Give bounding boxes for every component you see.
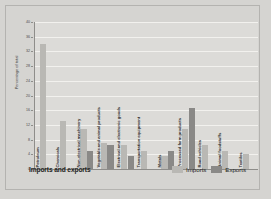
y-tick-mark: [31, 81, 33, 82]
bar-group: Chemicals: [55, 22, 75, 169]
legend-label: Exports: [225, 166, 246, 173]
y-tick-mark: [31, 51, 33, 52]
category-label: Vegetable and animal products: [96, 107, 100, 167]
bar-group: Textiles: [238, 22, 258, 169]
y-tick-mark: [31, 66, 33, 67]
y-tick-mark: [31, 96, 33, 97]
bar-group: Road vehicles: [197, 22, 217, 169]
chart-figure: Percentage of total 0481216202428323640 …: [0, 0, 271, 199]
y-tick-label: 24: [26, 79, 30, 83]
bar-group: Transportation equipment: [136, 22, 156, 169]
bar-imports: [40, 44, 46, 169]
bar-group: Metals: [157, 22, 177, 169]
category-label: Transportation equipment: [137, 117, 141, 167]
bar-group: Non-electrical machinery: [76, 22, 96, 169]
y-tick-label: 40: [26, 20, 30, 24]
y-tick-label: 32: [26, 49, 30, 53]
y-tick-mark: [31, 140, 33, 141]
category-label: Electrical and electronic goods: [117, 107, 121, 167]
y-tick-mark: [31, 154, 33, 155]
y-tick-label: 36: [26, 35, 30, 39]
legend-item[interactable]: Exports: [211, 166, 246, 173]
y-tick-mark: [31, 110, 33, 111]
y-tick-label: 16: [26, 108, 30, 112]
y-tick-mark: [31, 37, 33, 38]
y-tick-label: 8: [28, 138, 30, 142]
y-tick-label: 4: [28, 152, 30, 156]
bar-exports: [189, 108, 195, 169]
chart-footer: Imports and exports ImportsExports: [11, 161, 254, 183]
chart-legend: ImportsExports: [172, 166, 246, 173]
bar-group: Animal foodstuffs: [217, 22, 237, 169]
y-tick-label: 12: [26, 123, 30, 127]
plot-area: PetroleumChemicalsNon-electrical machine…: [34, 22, 258, 170]
y-axis-ticks: 0481216202428323640: [6, 22, 33, 169]
y-tick-mark: [31, 22, 33, 23]
legend-label: Imports: [186, 166, 206, 173]
bar-group: Electrical and electronic goods: [116, 22, 136, 169]
bar-group: Processed farm products: [177, 22, 197, 169]
legend-swatch: [172, 166, 183, 173]
y-tick-label: 28: [26, 64, 30, 68]
bar-group: Vegetable and animal products: [96, 22, 116, 169]
bar-group: Petroleum: [35, 22, 55, 169]
category-label: Non-electrical machinery: [76, 118, 80, 167]
legend-item[interactable]: Imports: [172, 166, 206, 173]
y-tick-mark: [31, 125, 33, 126]
legend-swatch: [211, 166, 222, 173]
y-tick-label: 20: [26, 94, 30, 98]
chart-title: Imports and exports: [29, 166, 91, 173]
category-label: Processed farm products: [178, 118, 182, 167]
bars-container: PetroleumChemicalsNon-electrical machine…: [35, 22, 258, 169]
chart-frame: Percentage of total 0481216202428323640 …: [5, 5, 260, 190]
